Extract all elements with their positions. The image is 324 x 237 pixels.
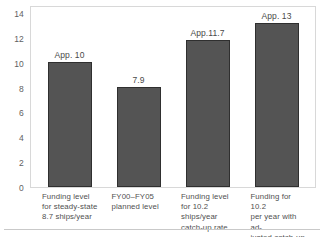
bar-value-label: App.11.7 (190, 28, 224, 38)
bar-value-label: App. 10 (54, 50, 84, 60)
y-axis-tick: 10 (14, 59, 24, 69)
category-line: for steady-state (42, 202, 100, 212)
category-line: planned level (112, 202, 170, 212)
category-line: Funding level (181, 192, 239, 202)
bar: App. 10 (48, 62, 92, 187)
bar-slot: App. 13 (242, 7, 311, 187)
bar: 7.9 (117, 87, 161, 187)
y-axis-tick: 6 (19, 108, 24, 118)
y-axis-tick: 12 (14, 34, 24, 44)
x-axis-category-label: Funding level for 10.2 ships/year catch-… (173, 192, 243, 228)
bar-series: App. 10 7.9 App.11.7 App. 13 (31, 7, 315, 187)
bar: App.11.7 (186, 40, 230, 187)
bar-value-label: 7.9 (132, 75, 144, 85)
category-line: justed catch-up mix (251, 233, 309, 237)
category-line: 8.7 ships/year (42, 212, 100, 222)
y-axis: 14 12 10 8 6 4 2 0 (0, 14, 29, 188)
y-axis-tick: 2 (19, 158, 24, 168)
category-line: FY00–FY05 (112, 192, 170, 202)
category-line: catch-up rate (181, 223, 239, 233)
bar-slot: App.11.7 (173, 7, 242, 187)
bar-value-label: App. 13 (261, 11, 291, 21)
bar-chart-figure: 14 12 10 8 6 4 2 0 App. 10 7.9 (0, 0, 324, 237)
y-axis-tick: 0 (19, 183, 24, 193)
x-axis-category-label: Funding level for steady-state 8.7 ships… (34, 192, 104, 228)
bar-slot: App. 10 (35, 7, 104, 187)
y-axis-tick: 4 (19, 133, 24, 143)
x-axis-category-labels: Funding level for steady-state 8.7 ships… (30, 192, 316, 228)
bar: App. 13 (255, 23, 299, 187)
x-axis-category-label: FY00–FY05 planned level (104, 192, 174, 228)
category-line: Funding level (42, 192, 100, 202)
plot-wrapper: 14 12 10 8 6 4 2 0 App. 10 7.9 (0, 0, 324, 196)
y-axis-tick: 14 (14, 9, 24, 19)
x-axis-category-label: Funding for 10.2 per year with ad- juste… (243, 192, 313, 228)
category-line: Funding for 10.2 (251, 192, 309, 212)
bar-slot: 7.9 (104, 7, 173, 187)
category-line: for 10.2 ships/year (181, 202, 239, 222)
y-axis-tick: 8 (19, 84, 24, 94)
footer-divider (4, 229, 320, 230)
plot-area: App. 10 7.9 App.11.7 App. 13 (30, 6, 316, 188)
